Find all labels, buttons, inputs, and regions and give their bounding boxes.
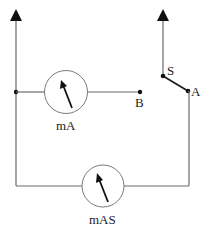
milliammeter: mA: [45, 71, 88, 134]
terminal-b: B: [135, 90, 144, 110]
meter-label-mas: mAS: [89, 212, 116, 227]
switch-terminal-s: [161, 74, 166, 79]
label-b: B: [135, 95, 144, 110]
label-a: A: [191, 84, 201, 99]
label-s: S: [167, 63, 174, 78]
meter-label-ma: mA: [56, 118, 76, 133]
circuit-diagram: mA B S A mAS: [0, 0, 208, 231]
switch-terminal-a: [186, 89, 191, 94]
left-lead: [10, 9, 22, 186]
arrow-up-icon: [157, 9, 169, 21]
arrow-up-icon: [10, 9, 22, 21]
milliampere-second-meter: mAS: [82, 165, 124, 227]
switch: S A: [161, 63, 201, 99]
